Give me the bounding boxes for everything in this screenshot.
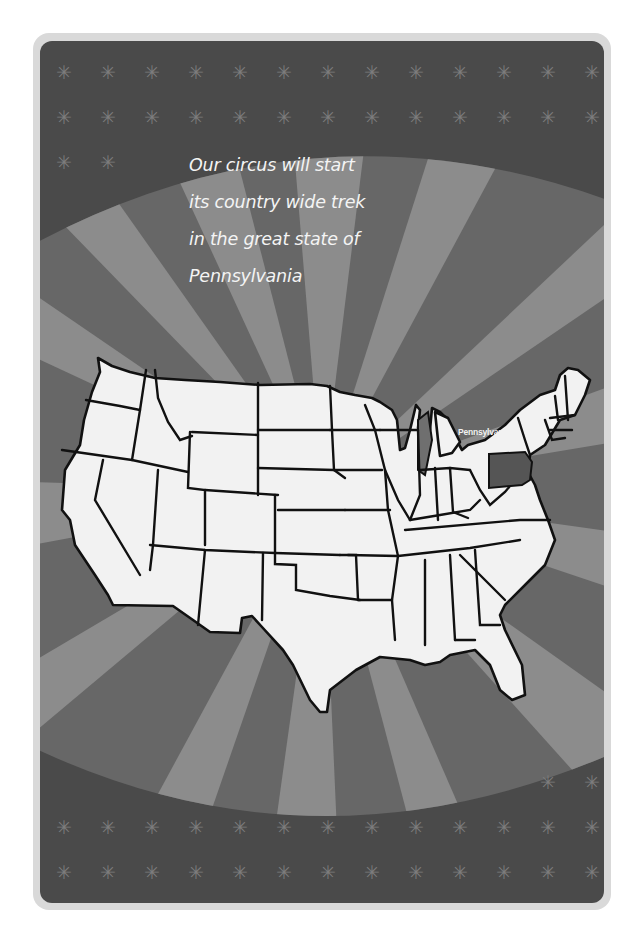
- pennsylvania-state: [489, 452, 532, 488]
- us-outline: [62, 358, 590, 712]
- pennsylvania-label: Pennsylvania: [458, 427, 510, 437]
- us-map: [0, 0, 643, 941]
